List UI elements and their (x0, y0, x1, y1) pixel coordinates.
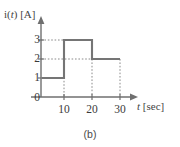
y-tick-label-0: 0 (28, 92, 40, 104)
x-axis-title: t [sec] (137, 101, 164, 112)
guide-lines (41, 40, 120, 97)
x-tick-label-20: 20 (82, 104, 102, 116)
y-axis-title-suffix: ) [A] (14, 8, 36, 20)
y-axis-title: i(t) [A] (4, 9, 35, 20)
waveform-step-trace (42, 40, 120, 78)
x-axis-title-suffix: [sec] (140, 100, 164, 112)
tick-marks (38, 40, 120, 100)
y-axis-arrowhead (38, 16, 45, 24)
y-tick-label-1: 1 (28, 72, 40, 84)
y-tick-label-3: 3 (28, 34, 40, 46)
plot-canvas (0, 0, 180, 147)
y-tick-label-2: 2 (28, 53, 40, 65)
figure-caption: (b) (0, 128, 180, 140)
y-axis-title-prefix: i( (4, 8, 11, 20)
figure-step-current-waveform: i(t) [A] t [sec] 0 1 2 3 10 20 30 (b) (0, 0, 180, 147)
x-tick-label-10: 10 (54, 104, 74, 116)
x-tick-label-30: 30 (110, 104, 130, 116)
